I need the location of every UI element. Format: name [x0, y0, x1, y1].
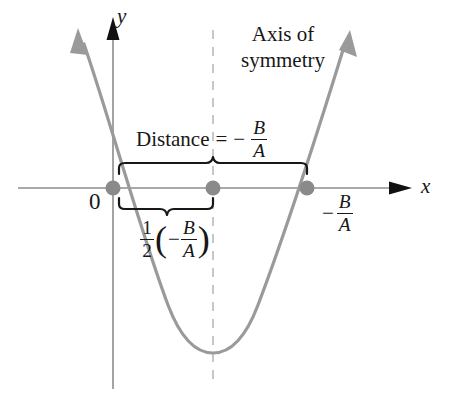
- inner-minus-sign: −: [168, 229, 180, 250]
- x-axis-label: x: [421, 176, 430, 197]
- right-root-fraction: B A: [337, 192, 353, 235]
- right-root-numerator: B: [337, 192, 353, 213]
- root-marker-origin: [106, 181, 121, 196]
- half-denominator: 2: [140, 240, 154, 261]
- y-axis-label: y: [117, 6, 126, 27]
- root-marker-right: [300, 181, 315, 196]
- right-root-denominator: A: [337, 214, 353, 235]
- fraction-denominator: A: [251, 140, 267, 161]
- x-axis-arrowhead: [389, 182, 412, 195]
- minus-sign: −: [233, 129, 245, 150]
- equals-sign: =: [215, 129, 227, 150]
- vertex-x-marker: [206, 181, 221, 196]
- inner-fraction-b-over-a: B A: [181, 218, 197, 261]
- inner-fraction-numerator: B: [181, 218, 197, 239]
- distance-label: Distance = − B A: [136, 118, 267, 161]
- right-root-minus-sign: −: [322, 203, 334, 224]
- inner-fraction-denominator: A: [181, 240, 197, 261]
- paren-close: ): [198, 225, 210, 255]
- right-root-label: − B A: [322, 192, 353, 235]
- axis-of-symmetry-label: Axis of symmetry: [219, 22, 347, 73]
- fraction-numerator: B: [251, 118, 267, 139]
- parabola-left-arrowhead: [70, 28, 88, 55]
- origin-label: 0: [89, 190, 101, 213]
- half-numerator: 1: [140, 218, 154, 239]
- fraction-one-half: 1 2: [140, 218, 154, 261]
- distance-word: Distance: [136, 129, 209, 150]
- parabola-figure: y x 0 Axis of symmetry Distance = − B A …: [0, 0, 458, 405]
- fraction-b-over-a: B A: [251, 118, 267, 161]
- paren-open: (: [155, 225, 167, 255]
- half-distance-label: 1 2 ( − B A ): [140, 218, 210, 261]
